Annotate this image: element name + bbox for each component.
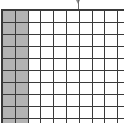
grid-cell-empty [28,23,41,35]
grid-row [3,59,125,71]
grid-cell-empty [41,107,54,119]
grid-cell-empty [41,119,54,124]
grid-cell-empty [105,83,118,95]
grid-cell-empty [28,11,41,23]
grid-cell-empty [79,11,92,23]
grid-cell-empty [118,95,124,107]
grid-cell-empty [79,107,92,119]
grid-cell-shaded [15,119,28,124]
grid-cell-empty [92,95,105,107]
grid-row [3,71,125,83]
grid-cell-shaded [15,47,28,59]
grid-cell-empty [66,35,79,47]
grid-cell-empty [41,95,54,107]
grid-cell-empty [92,47,105,59]
grid-row [3,11,125,23]
grid-cell-empty [54,35,67,47]
grid-cell-empty [118,119,124,124]
grid-cell-empty [54,95,67,107]
grid-cell-empty [28,119,41,124]
grid-cell-empty [66,119,79,124]
grid-cell-empty [118,107,124,119]
grid-cell-empty [79,59,92,71]
grid-cell-shaded [15,59,28,71]
grid-cell-empty [92,119,105,124]
grid-cell-empty [28,59,41,71]
grid-cell-shaded [3,71,16,83]
grid-cell-empty [118,23,124,35]
grid-cell-empty [41,59,54,71]
grid-cell-empty [105,11,118,23]
grid-cell-empty [66,11,79,23]
grid-cell-empty [105,35,118,47]
grid-cell-shaded [15,71,28,83]
grid-cell-shaded [3,23,16,35]
grid-cell-empty [54,83,67,95]
pointer-tick-icon [76,0,81,9]
grid-cell-empty [79,47,92,59]
grid-cell-shaded [3,95,16,107]
grid-cell-empty [41,35,54,47]
grid-cell-empty [79,35,92,47]
grid-cell-empty [28,95,41,107]
pointer-tip [76,0,80,4]
grid-cell-empty [41,11,54,23]
grid-cell-shaded [15,83,28,95]
grid-cell-empty [92,11,105,23]
grid-row [3,107,125,119]
grid-cell-empty [28,71,41,83]
grid-row [3,119,125,124]
grid-cell-empty [105,107,118,119]
grid-cell-empty [66,47,79,59]
grid-cell-empty [92,23,105,35]
grid-cell-empty [105,95,118,107]
grid-cell-empty [118,47,124,59]
grid-cell-empty [118,11,124,23]
grid-row [3,83,125,95]
grid-cell-empty [118,59,124,71]
grid-cell-shaded [3,11,16,23]
grid-cell-empty [41,47,54,59]
grid-cell-empty [28,47,41,59]
grid-cell-empty [66,71,79,83]
pointer-stem [78,0,79,9]
grid-cell-empty [66,59,79,71]
grid-cell-empty [54,71,67,83]
grid-cell-empty [54,59,67,71]
grid-cell-empty [41,23,54,35]
grid-cell-shaded [15,95,28,107]
grid-cell-empty [41,71,54,83]
grid-cell-empty [118,71,124,83]
grid-cell-empty [79,71,92,83]
grid-cell-shaded [3,119,16,124]
grid-cell-empty [66,95,79,107]
grid-cell-empty [54,107,67,119]
grid-row [3,95,125,107]
grid-cell-empty [105,119,118,124]
grid-cell-empty [118,83,124,95]
grid-cell-empty [66,83,79,95]
grid-cell-empty [66,23,79,35]
grid-cell-shaded [15,35,28,47]
grid-cell-empty [92,83,105,95]
grid-row [3,35,125,47]
grid-cell-shaded [15,11,28,23]
grid-cell-shaded [15,23,28,35]
grid-cell-empty [54,11,67,23]
grid-body [3,11,125,124]
grid-cell-empty [105,47,118,59]
grid-cell-empty [79,83,92,95]
grid-cell-empty [105,23,118,35]
grid-row [3,23,125,35]
grid-container [2,10,120,120]
grid-cell-empty [118,35,124,47]
grid-cell-empty [41,83,54,95]
grid-cell-empty [105,59,118,71]
grid-cell-empty [28,83,41,95]
grid-cell-shaded [3,59,16,71]
grid-cell-shaded [15,107,28,119]
grid-cell-empty [66,107,79,119]
grid-row [3,47,125,59]
grid-cell-shaded [3,35,16,47]
grid-cell-shaded [3,83,16,95]
